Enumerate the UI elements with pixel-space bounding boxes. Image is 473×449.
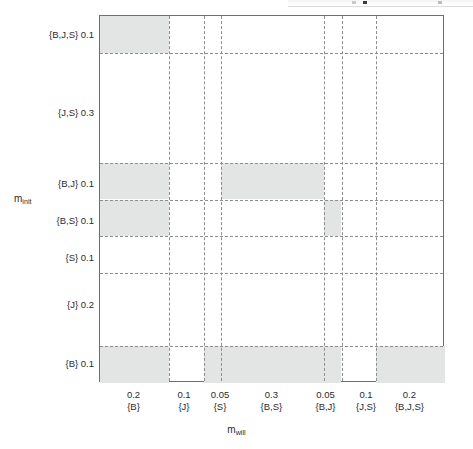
- x-tick-set-b: {B}: [99, 401, 168, 413]
- gridline-v-after-bj: [342, 16, 343, 381]
- cell-b-bj[interactable]: [324, 346, 341, 383]
- x-tick-label-b: 0.2 {B}: [99, 389, 168, 412]
- gridline-v-after-s: [221, 16, 222, 381]
- scan-artifact-mark-center: [363, 1, 367, 4]
- x-tick-value-bj: 0.05: [303, 389, 348, 401]
- gridline-v-after-j: [204, 16, 205, 381]
- cell-bj-bs[interactable]: [221, 163, 325, 200]
- gridline-h-after-bjs: [100, 53, 443, 54]
- cell-b-bjs[interactable]: [376, 346, 445, 383]
- y-tick-label-bjs: {B,J,S} 0.1: [0, 29, 94, 40]
- y-tick-label-b: {B} 0.1: [0, 358, 94, 369]
- y-axis-title: minit: [14, 193, 32, 204]
- x-axis-title-base: m: [227, 424, 235, 435]
- gridline-h-after-js: [100, 163, 443, 164]
- scan-artifact-mark-right: [438, 1, 442, 4]
- cell-bs-b[interactable]: [100, 200, 169, 237]
- cell-bs-bj[interactable]: [324, 200, 341, 237]
- gridline-v-after-b: [169, 16, 170, 381]
- gridline-h-after-j: [100, 346, 443, 347]
- y-tick-label-js: {J,S} 0.3: [0, 107, 94, 118]
- scan-artifact-mark-left: [352, 1, 356, 4]
- x-tick-value-bjs: 0.2: [375, 389, 444, 401]
- y-tick-label-bj: {B,J} 0.1: [0, 178, 94, 189]
- x-axis-title: mwill: [0, 424, 473, 435]
- gridline-h-after-bj: [100, 200, 443, 201]
- scan-artifact-strip: [288, 0, 473, 7]
- y-tick-label-bs: {B,S} 0.1: [0, 215, 94, 226]
- x-axis-title-subscript: will: [236, 428, 246, 437]
- gridline-h-after-bs: [100, 236, 443, 237]
- heatmap-plot-area[interactable]: [99, 15, 444, 382]
- gridline-v-after-js: [376, 16, 377, 381]
- cell-bj-b[interactable]: [100, 163, 169, 200]
- cell-b-bs[interactable]: [221, 346, 325, 383]
- cell-bjs-b[interactable]: [100, 16, 169, 53]
- x-tick-label-bjs: 0.2 {B,J,S}: [375, 389, 444, 412]
- y-tick-label-s: {S} 0.1: [0, 252, 94, 263]
- x-tick-set-bjs: {B,J,S}: [375, 401, 444, 413]
- y-tick-label-j: {J} 0.2: [0, 299, 94, 310]
- cell-b-b[interactable]: [100, 346, 169, 383]
- cell-b-s[interactable]: [204, 346, 221, 383]
- y-axis-title-subscript: init: [22, 197, 31, 206]
- heatmap-grid-surface: [100, 16, 443, 381]
- x-tick-value-b: 0.2: [99, 389, 168, 401]
- gridline-h-after-s: [100, 273, 443, 274]
- x-tick-label-bj: 0.05 {B,J}: [303, 389, 348, 412]
- x-tick-set-bj: {B,J}: [303, 401, 348, 413]
- gridline-v-after-bs: [324, 16, 325, 381]
